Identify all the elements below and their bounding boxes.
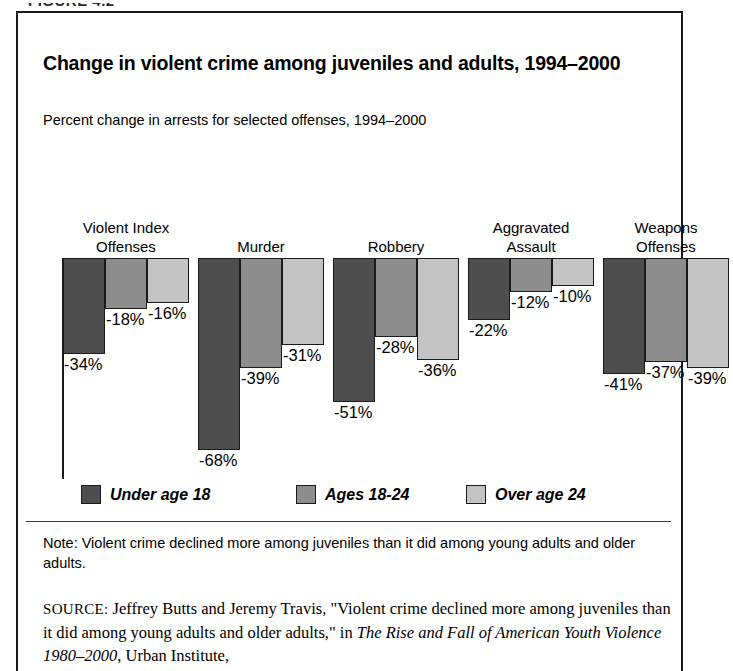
chart-note: Note: Violent crime declined more among …	[43, 534, 668, 573]
legend-label: Over age 24	[495, 486, 586, 504]
bar-robbery-over-age-24	[417, 258, 459, 360]
bar-value-label: -16%	[148, 304, 187, 323]
legend-swatch-icon	[296, 485, 316, 504]
bar-murder-over-age-24	[282, 258, 324, 345]
bar-violent-index-offenses-under-age-18	[63, 258, 105, 354]
bar-value-label: -12%	[511, 293, 550, 312]
bar-value-label: -39%	[688, 369, 727, 388]
chart-source: SOURCE: Jeffrey Butts and Jeremy Travis,…	[43, 597, 671, 667]
bar-value-label: -68%	[199, 451, 238, 470]
group-label: Weapons Offenses	[589, 218, 733, 256]
figure-caption: FIGURE 4.2	[28, 0, 115, 9]
source-label: SOURCE:	[43, 601, 108, 617]
chart-subtitle: Percent change in arrests for selected o…	[43, 111, 653, 129]
bar-value-label: -31%	[283, 346, 322, 365]
bar-value-label: -34%	[64, 355, 103, 374]
group-label: Murder	[184, 237, 338, 256]
legend-label: Under age 18	[110, 486, 210, 504]
bar-weapons-offenses-over-age-24	[687, 258, 729, 368]
bar-robbery-under-age-18	[333, 258, 375, 402]
bar-chart-plot: -34%-18%-16%-68%-39%-31%-51%-28%-36%-22%…	[38, 188, 678, 488]
chart-legend: Under age 18Ages 18-24Over age 24	[43, 485, 663, 515]
bar-value-label: -51%	[334, 403, 373, 422]
bar-value-label: -28%	[376, 338, 415, 357]
group-label: Aggravated Assault	[454, 218, 608, 256]
legend-item-over-age-24: Over age 24	[466, 485, 586, 504]
legend-swatch-icon	[81, 485, 101, 504]
figure-frame: Change in violent crime among juveniles …	[16, 11, 683, 671]
legend-item-ages-18-24: Ages 18-24	[296, 485, 410, 504]
bar-weapons-offenses-ages-18-24	[645, 258, 687, 362]
bar-weapons-offenses-under-age-18	[603, 258, 645, 374]
bar-violent-index-offenses-over-age-24	[147, 258, 189, 303]
bar-aggravated-assault-over-age-24	[552, 258, 594, 286]
bar-murder-under-age-18	[198, 258, 240, 450]
group-label: Violent Index Offenses	[49, 218, 203, 256]
bar-value-label: -36%	[418, 361, 457, 380]
bar-value-label: -18%	[106, 310, 145, 329]
bar-murder-ages-18-24	[240, 258, 282, 368]
bar-value-label: -10%	[553, 287, 592, 306]
legend-label: Ages 18-24	[325, 486, 410, 504]
legend-swatch-icon	[466, 485, 486, 504]
bar-value-label: -37%	[646, 363, 685, 382]
figure-inner: Change in violent crime among juveniles …	[18, 13, 681, 671]
group-label: Robbery	[319, 237, 473, 256]
legend-divider	[26, 521, 671, 522]
bar-aggravated-assault-ages-18-24	[510, 258, 552, 292]
bar-violent-index-offenses-ages-18-24	[105, 258, 147, 309]
bar-value-label: -41%	[604, 375, 643, 394]
bar-value-label: -39%	[241, 369, 280, 388]
bar-aggravated-assault-under-age-18	[468, 258, 510, 320]
page-title: Change in violent crime among juveniles …	[43, 51, 643, 76]
bar-robbery-ages-18-24	[375, 258, 417, 337]
bar-value-label: -22%	[469, 321, 508, 340]
source-text-part2: , Urban Institute,	[117, 646, 229, 665]
legend-item-under-age-18: Under age 18	[81, 485, 210, 504]
